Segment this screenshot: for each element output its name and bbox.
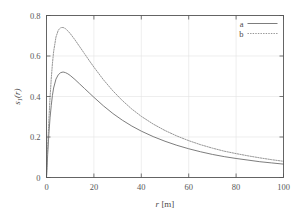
y-tick-label-4: 0.8 (30, 11, 41, 21)
y-tick-label-3: 0.6 (30, 51, 41, 61)
y-tick-label-0: 0 (36, 173, 40, 183)
x-tick-label-4: 80 (232, 182, 241, 192)
x-tick-label-1: 20 (90, 182, 99, 192)
y-tick-label-2: 0.4 (30, 92, 41, 102)
x-tick-label-5: 100 (277, 182, 290, 192)
legend-label-b: b (239, 29, 243, 39)
x-tick-label-2: 40 (137, 182, 146, 192)
y-tick-label-1: 0.2 (30, 132, 41, 142)
line-chart: 020406080100 00.20.40.60.8 ab r [m]s1(r) (0, 0, 299, 214)
x-tick-label-3: 60 (184, 182, 193, 192)
x-tick-label-0: 0 (44, 182, 48, 192)
x-axis-title: r [m] (156, 199, 175, 209)
y-axis-title: s1(r) (12, 88, 23, 104)
chart-figure: 020406080100 00.20.40.60.8 ab r [m]s1(r) (0, 0, 299, 214)
legend-label-a: a (240, 19, 244, 29)
